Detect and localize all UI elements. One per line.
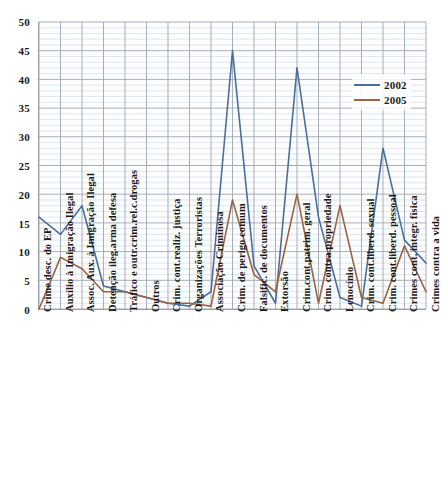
legend-label: 2005 <box>384 94 407 106</box>
x-tick-label: Crimes contra a vida <box>430 216 441 312</box>
y-tick-label: 40 <box>19 74 30 86</box>
x-tick-label: Assoc. Aux. à Imigração Ilegal <box>85 173 96 312</box>
y-tick-label: 30 <box>19 131 30 143</box>
legend-item-2005: 2005 <box>354 92 407 107</box>
y-tick-label: 45 <box>19 45 30 57</box>
y-tick-label: 50 <box>19 16 30 28</box>
legend-label: 2002 <box>384 79 407 91</box>
x-tick-label: Crim. cont.liberd. sexual <box>365 198 376 312</box>
x-tick-label: Associação Criminosa <box>214 211 225 312</box>
legend-swatch <box>354 99 380 101</box>
y-tick-label: 10 <box>19 246 30 258</box>
y-tick-label: 25 <box>19 160 30 172</box>
x-tick-label: Crim. de perigo comum <box>236 203 247 312</box>
y-tick-label: 15 <box>19 218 30 230</box>
x-tick-label: Crim. cont.liberd. pessoal <box>387 194 398 312</box>
y-tick-label: 20 <box>19 189 30 201</box>
x-tick-label: Falsific. de documentos <box>258 205 269 312</box>
y-tick-label: 35 <box>19 102 30 114</box>
y-tick-label: 5 <box>24 275 30 287</box>
x-tick-label: Crimes cont. integr. física <box>408 195 419 312</box>
x-axis: Crime desc. do EPAuxílio à Imigração Ile… <box>38 310 426 476</box>
x-tick-label: Detenção ileg.arma defesa <box>107 193 118 312</box>
y-axis: 05101520253035404550 <box>0 22 34 310</box>
y-tick-label: 0 <box>24 304 30 316</box>
x-tick-label: Crim. contra propriedade <box>322 193 333 312</box>
x-tick-label: Crime desc. do EP <box>42 227 53 312</box>
line-chart: 05101520253035404550 Crime desc. do EPAu… <box>0 0 441 478</box>
x-tick-label: Outros <box>150 280 161 312</box>
x-tick-label: Organizações Terroristas <box>193 197 204 312</box>
legend-swatch <box>354 84 380 86</box>
x-tick-label: Crim.cont.patrim. geral <box>301 202 312 312</box>
x-tick-label: Lenocínio <box>344 267 355 312</box>
chart-legend: 20022005 <box>352 74 411 110</box>
x-tick-label: Crim. cont.realiz. justiça <box>171 198 182 312</box>
x-tick-label: Extorsão <box>279 271 290 312</box>
legend-item-2002: 2002 <box>354 77 407 92</box>
x-tick-label: Auxílio à Imigração Ilegal <box>64 192 75 312</box>
x-tick-label: Tráfico e outr.crim.rel.c.drogas <box>128 170 139 312</box>
